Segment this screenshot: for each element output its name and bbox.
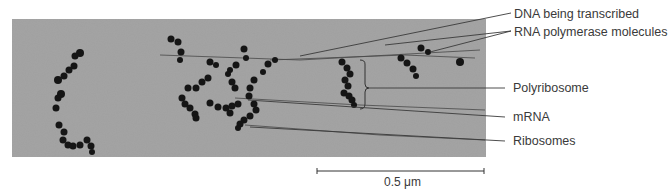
- leader-lines: [248, 13, 511, 141]
- scale-bar: [317, 168, 484, 174]
- rna-polymerase-molecules: [398, 45, 465, 80]
- polyribosome-cluster-center: [168, 36, 279, 132]
- label-dna-being-transcribed: DNA being transcribed: [514, 7, 639, 21]
- label-rna-polymerase-molecules: RNA polymerase molecules: [514, 25, 668, 39]
- label-ribosomes: Ribosomes: [513, 134, 576, 148]
- polyribosome-chain-left: [53, 49, 96, 155]
- polyribosome-bracket: [360, 60, 369, 109]
- label-polyribosome: Polyribosome: [513, 81, 589, 95]
- scale-bar-label: 0.5 μm: [384, 175, 421, 189]
- polyribosome-right: [339, 59, 358, 109]
- label-mrna: mRNA: [513, 110, 550, 124]
